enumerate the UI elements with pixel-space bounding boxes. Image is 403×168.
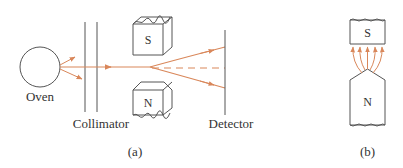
oven-spray-up-arrow [60,57,75,65]
oven-label: Oven [26,89,55,104]
figure-b-south-label: S [364,26,371,40]
south-pole-magnet: S [133,16,172,55]
deflected-beam-down-arrow [200,81,214,85]
figure-b: S N (b) [350,19,385,159]
collimator-label: Collimator [73,116,130,131]
figure-a-caption: (a) [128,144,142,159]
stern-gerlach-diagram: Oven Collimator S N [0,0,403,168]
field-line-4 [370,47,375,70]
oven-spray-down-arrow [60,69,82,79]
field-line-2 [360,47,365,70]
figure-a: Oven Collimator S N [20,16,254,159]
south-pole-label: S [145,33,152,47]
north-pole-label: N [144,96,153,110]
figure-b-north-label: N [363,95,372,109]
deflected-beam-up-arrow [200,50,214,54]
north-pole-magnet: N [133,82,172,119]
oven-circle [20,47,60,87]
detector-label: Detector [209,116,254,131]
figure-b-caption: (b) [360,144,375,159]
